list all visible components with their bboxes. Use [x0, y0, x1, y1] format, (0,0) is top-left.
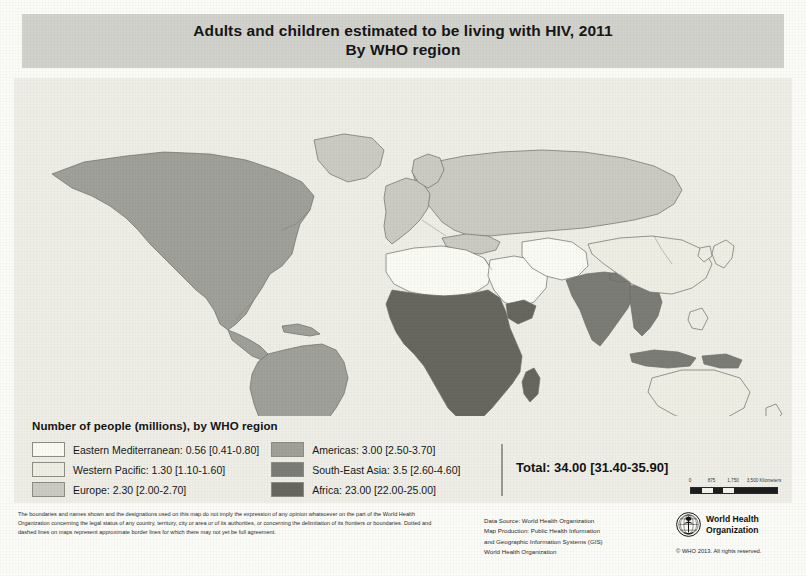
scale-bar: 0 875 1,750 3,500 Kilometers	[690, 478, 776, 494]
scale-seg-1	[691, 488, 702, 493]
data-source-line-3: and Geographic Information Systems (GIS)	[484, 537, 684, 547]
scale-tick-1: 875	[708, 478, 716, 483]
legend-columns: Eastern Mediterranean: 0.56 [0.41-0.80] …	[32, 442, 492, 497]
legend-title: Number of people (millions), by WHO regi…	[32, 420, 278, 432]
legend-column-right: Americas: 3.00 [2.50-3.70] South-East As…	[271, 442, 460, 497]
page-title-line-1: Adults and children estimated to be livi…	[193, 22, 612, 41]
scale-tick-0: 0	[689, 478, 692, 483]
legend-swatch-eastern-mediterranean	[32, 442, 65, 457]
page-title-line-2: By WHO region	[346, 41, 461, 60]
scale-bar-ticks: 0 875 1,750 3,500 Kilometers	[690, 478, 776, 487]
data-source-line-2: Map Production: Public Health Informatio…	[484, 526, 684, 536]
who-logo-wordmark: World Health Organization	[706, 514, 759, 535]
legend-item-eastern-mediterranean[interactable]: Eastern Mediterranean: 0.56 [0.41-0.80]	[32, 442, 259, 457]
map-disclaimer: The boundaries and names shown and the d…	[18, 510, 448, 537]
legend-divider	[501, 444, 503, 496]
legend-label-americas: Americas: 3.00 [2.50-3.70]	[312, 444, 435, 456]
who-logo-line-2: Organization	[706, 525, 759, 535]
scale-seg-3	[713, 488, 724, 493]
legend-swatch-americas	[271, 442, 304, 457]
legend-label-africa: Africa: 23.00 [22.00-25.00]	[312, 484, 436, 496]
legend-item-europe[interactable]: Europe: 2.30 [2.00-2.70]	[32, 482, 259, 497]
legend-swatch-western-pacific	[32, 462, 65, 477]
legend-swatch-europe	[32, 482, 65, 497]
legend-swatch-south-east-asia	[271, 462, 304, 477]
legend-item-western-pacific[interactable]: Western Pacific: 1.30 [1.10-1.60]	[32, 462, 259, 477]
who-logo: World Health Organization	[676, 512, 759, 537]
scale-seg-2	[702, 488, 713, 493]
scale-bar-segments	[690, 487, 778, 494]
total-estimate: Total: 34.00 [31.40-35.90]	[516, 460, 668, 475]
data-source-line-4: World Health Organization	[484, 547, 684, 557]
data-source-block: Data Source: World Health Organization M…	[484, 516, 684, 558]
scale-tick-2: 1,750	[727, 478, 739, 483]
who-emblem-icon	[676, 512, 701, 537]
map-panel[interactable]: Number of people (millions), by WHO regi…	[14, 78, 792, 503]
legend-label-south-east-asia: South-East Asia: 3.5 [2.60-4.60]	[312, 464, 460, 476]
legend-label-europe: Europe: 2.30 [2.00-2.70]	[73, 484, 186, 496]
legend-label-western-pacific: Western Pacific: 1.30 [1.10-1.60]	[73, 464, 225, 476]
copyright-notice: © WHO 2013. All rights reserved.	[676, 548, 761, 554]
legend-column-left: Eastern Mediterranean: 0.56 [0.41-0.80] …	[32, 442, 259, 497]
who-logo-line-1: World Health	[706, 514, 759, 524]
scale-tick-3: 3,500 Kilometers	[747, 478, 781, 483]
scale-seg-4	[723, 488, 734, 493]
legend-swatch-africa	[271, 482, 304, 497]
legend-item-americas[interactable]: Americas: 3.00 [2.50-3.70]	[271, 442, 460, 457]
legend-label-eastern-mediterranean: Eastern Mediterranean: 0.56 [0.41-0.80]	[73, 444, 259, 456]
scale-seg-5	[734, 488, 777, 493]
map-page: Adults and children estimated to be livi…	[0, 0, 806, 576]
title-band: Adults and children estimated to be livi…	[22, 14, 784, 68]
data-source-line-1: Data Source: World Health Organization	[484, 516, 684, 526]
world-choropleth-map[interactable]	[14, 78, 792, 418]
legend-item-africa[interactable]: Africa: 23.00 [22.00-25.00]	[271, 482, 460, 497]
map-legend: Number of people (millions), by WHO regi…	[14, 416, 792, 503]
legend-item-south-east-asia[interactable]: South-East Asia: 3.5 [2.60-4.60]	[271, 462, 460, 477]
